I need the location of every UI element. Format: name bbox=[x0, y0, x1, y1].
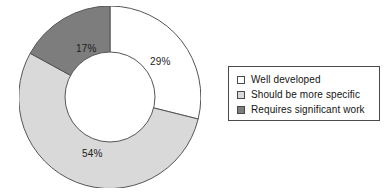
slice-value-label-well-developed: 29% bbox=[150, 57, 171, 67]
donut-chart-svg bbox=[19, 6, 201, 188]
slice-value-label-requires-significant-work: 17% bbox=[76, 44, 97, 54]
legend-item-requires-significant-work[interactable]: Requires significant work bbox=[237, 103, 379, 117]
donut-center-hole bbox=[65, 52, 155, 142]
legend-swatch-requires-significant-work bbox=[237, 106, 245, 114]
legend-label-should-be-more-specific: Should be more specific bbox=[251, 90, 360, 100]
donut-chart-figure: 29% 17% 54% Well developed Should be mor… bbox=[0, 0, 392, 195]
legend-label-requires-significant-work: Requires significant work bbox=[251, 105, 365, 115]
legend-item-well-developed[interactable]: Well developed bbox=[237, 73, 379, 87]
legend-swatch-well-developed bbox=[237, 76, 245, 84]
legend-item-should-be-more-specific[interactable]: Should be more specific bbox=[237, 88, 379, 102]
chart-legend: Well developed Should be more specific R… bbox=[228, 66, 380, 121]
slice-value-label-should-be-more-specific: 54% bbox=[82, 149, 103, 159]
legend-swatch-should-be-more-specific bbox=[237, 91, 245, 99]
legend-label-well-developed: Well developed bbox=[251, 75, 321, 85]
donut-chart: 29% 17% 54% bbox=[19, 6, 201, 188]
